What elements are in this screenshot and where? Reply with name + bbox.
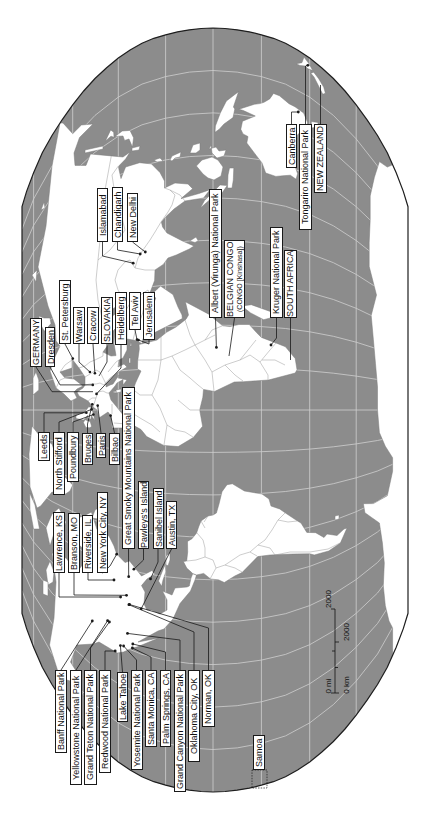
marker-leeds xyxy=(85,412,88,415)
label-poundbury: Poundbury xyxy=(67,432,79,482)
marker-north-stifford xyxy=(90,408,93,411)
landmass-sardinia xyxy=(116,389,121,393)
marker-great-smoky xyxy=(127,575,130,578)
label-lake-tahoe: Lake Tahoe xyxy=(117,672,128,722)
marker-banff xyxy=(91,620,94,623)
marker-bilbao xyxy=(109,414,112,417)
label-slovakia: SLOVAKIA xyxy=(101,297,113,344)
label-redwood-national-park: Redwood National Park xyxy=(99,670,111,773)
label-santa-monica: Santa Monica, CA xyxy=(145,670,157,747)
label-samoa: Samoa xyxy=(253,735,265,770)
marker-new-york xyxy=(115,553,118,556)
label-dresden: Dresden xyxy=(45,327,55,367)
marker-lake-tahoe xyxy=(119,644,122,647)
marker-palm-springs xyxy=(131,643,134,646)
label-albert-virunga-national-park: Albert (Virunga) National Park xyxy=(209,189,222,318)
label-new-delhi: New Delhi xyxy=(127,193,138,242)
marker-chandigarh xyxy=(139,253,142,256)
label-riverside: Riverside, IL xyxy=(82,515,93,573)
label-oklahoma-city: Oklahoma City, OK xyxy=(188,670,200,762)
marker-branson xyxy=(125,594,128,597)
marker-paris xyxy=(96,404,99,407)
label-islamabad: Islamabad xyxy=(97,188,108,242)
label-branson: Branson, MO xyxy=(68,513,80,573)
label-kruger-national-park: Kruger National Park xyxy=(270,227,283,318)
label-norman: Norman, OK xyxy=(202,670,215,727)
label-jerusalem: Jerusalem xyxy=(143,292,155,340)
label-canberra: Canberra xyxy=(286,124,297,168)
landmass-banks-island xyxy=(43,580,48,596)
label-yellowstone-national-park: Yellowstone National Park xyxy=(70,670,82,785)
landmass-falkland-islands xyxy=(335,515,339,520)
label-paris: Paris xyxy=(96,433,106,458)
label-germany: GERMANY xyxy=(30,318,42,367)
label-belgian-congo: BELGIAN CONGO (CONGO [Kinshasa]) xyxy=(224,240,245,318)
marker-tongariro xyxy=(306,64,309,67)
marker-bruges xyxy=(91,403,94,406)
label-new-zealand: NEW ZEALAND xyxy=(314,124,327,193)
marker-heidelberg xyxy=(95,393,98,396)
marker-yosemite xyxy=(122,645,125,648)
marker-lawrence xyxy=(119,596,122,599)
marker-cracow xyxy=(94,372,97,375)
label-tel-aviv: Tel Aviv xyxy=(129,292,141,330)
marker-sanibel-island xyxy=(149,578,152,581)
scale-label-mi-zero: 0 mi xyxy=(324,678,333,693)
label-cracow: Cracow xyxy=(87,307,99,344)
label-chandigarh: Chandigarh xyxy=(112,187,123,242)
world-map-figure: 2000 0 mi 2000 0 km Banff National Park … xyxy=(0,0,429,815)
label-palm-springs: Palm Springs, CA xyxy=(160,670,171,747)
marker-redwood xyxy=(114,650,117,653)
marker-albert-virunga xyxy=(215,346,218,349)
label-lawrence: Lawrence, KS xyxy=(53,512,65,573)
marker-austin xyxy=(140,607,143,610)
label-banff-national-park: Banff National Park xyxy=(55,670,67,753)
label-austin: Austin, TX xyxy=(166,501,177,549)
marker-canberra xyxy=(297,111,300,114)
label-new-york-city: New York City, NY xyxy=(97,492,108,573)
marker-norman xyxy=(128,603,131,606)
label-great-smoky-mountains-national-park: Great Smoky Mountains National Park xyxy=(122,387,135,549)
label-yosemite-national-park: Yosemite National Park xyxy=(131,670,143,770)
label-heidelberg: Heidelberg xyxy=(115,292,127,345)
marker-poundbury xyxy=(92,413,95,416)
label-st-petersburg: St. Petersburg xyxy=(59,280,71,344)
label-warsaw: Warsaw xyxy=(73,307,85,344)
label-sanibel-island: Sanibel Island xyxy=(153,488,164,549)
marker-riverside xyxy=(113,579,116,582)
label-grand-canyon-national-park: Grand Canyon National Park xyxy=(174,670,186,792)
marker-grand-teton xyxy=(108,621,111,624)
label-south-africa: SOUTH AFRICA xyxy=(284,250,297,318)
label-bilbao: Bilbao xyxy=(109,433,120,465)
label-leeds: Leeds xyxy=(38,432,50,461)
scale-label-km-zero: 0 km xyxy=(342,676,351,694)
marker-islamabad xyxy=(132,262,135,265)
label-north-stifford: North Stifford xyxy=(53,432,65,495)
scale-label-km-max: 2000 xyxy=(342,623,351,641)
label-belgian-congo-name: BELGIAN CONGO xyxy=(225,241,235,317)
label-grand-teton-national-park: Grand Teton National Park xyxy=(84,670,97,785)
marker-dresden xyxy=(92,384,95,387)
marker-kruger xyxy=(270,344,273,347)
marker-new-delhi xyxy=(144,251,147,254)
label-bruges: Bruges xyxy=(82,433,93,465)
scale-label-mi-max: 2000 xyxy=(324,590,333,608)
label-pawleys-island: Pawleys's Island xyxy=(138,481,149,549)
marker-grand-canyon xyxy=(126,632,129,635)
marker-pawleys-island xyxy=(133,568,136,571)
marker-santa-monica xyxy=(131,647,134,650)
marker-st-petersburg xyxy=(72,357,75,360)
marker-jerusalem xyxy=(137,339,140,342)
marker-warsaw xyxy=(89,371,92,374)
label-tongariro-national-park: Tongariro National Park xyxy=(299,124,312,230)
landmass-crete xyxy=(129,358,131,363)
label-belgian-congo-modern-name: (CONGO [Kinshasa]) xyxy=(235,241,244,317)
